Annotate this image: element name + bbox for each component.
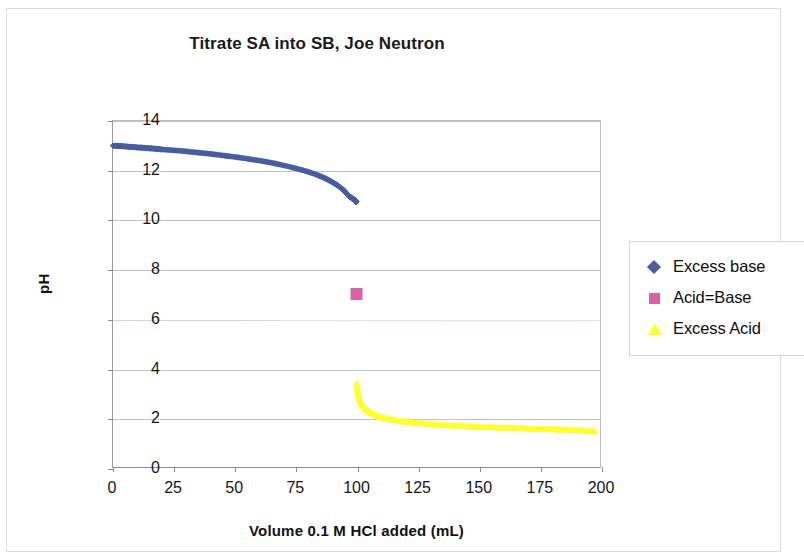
series-acid-base (351, 289, 362, 300)
y-tick-label-12: 12 (120, 161, 160, 179)
x-tick-25 (174, 467, 175, 472)
legend-marker-square-icon (646, 289, 664, 307)
x-tick-125 (419, 467, 420, 472)
x-tick-label-100: 100 (327, 479, 387, 497)
x-tick-label-50: 50 (204, 479, 264, 497)
x-tick-0 (113, 467, 114, 472)
y-tick-label-14: 14 (120, 111, 160, 129)
x-tick-label-200: 200 (571, 479, 631, 497)
x-tick-175 (541, 467, 542, 472)
y-tick-label-8: 8 (120, 260, 160, 278)
chart-title: Titrate SA into SB, Joe Neutron (7, 34, 627, 54)
legend-marker-diamond-icon (646, 258, 664, 276)
data-series-layer (113, 121, 600, 467)
x-tick-150 (480, 467, 481, 472)
x-tick-label-0: 0 (82, 479, 142, 497)
y-axis-title: pH (35, 273, 52, 294)
chart-legend: Excess baseAcid=BaseExcess Acid (629, 241, 804, 356)
plot-area (112, 120, 601, 468)
x-tick-100 (358, 467, 359, 472)
x-tick-75 (296, 467, 297, 472)
x-tick-200 (602, 467, 603, 472)
legend-item-excess-base[interactable]: Excess base (630, 251, 804, 282)
x-tick-label-75: 75 (265, 479, 325, 497)
diamond-shape (647, 259, 661, 273)
y-tick-label-0: 0 (120, 459, 160, 477)
y-tick-label-2: 2 (120, 409, 160, 427)
y-tick-label-4: 4 (120, 360, 160, 378)
series-excess-acid (354, 380, 599, 434)
legend-label: Excess Acid (673, 319, 761, 338)
legend-label: Acid=Base (673, 288, 751, 307)
x-tick-label-125: 125 (388, 479, 448, 497)
x-tick-label-150: 150 (449, 479, 509, 497)
y-tick-label-10: 10 (120, 210, 160, 228)
legend-item-acid-base[interactable]: Acid=Base (630, 282, 804, 313)
x-axis-title: Volume 0.1 M HCl added (mL) (112, 522, 601, 539)
legend-marker-triangle-icon (646, 320, 664, 338)
triangle-shape (648, 323, 662, 335)
legend-item-excess-acid[interactable]: Excess Acid (630, 313, 804, 344)
y-tick-label-6: 6 (120, 310, 160, 328)
square-shape (649, 293, 660, 304)
chart-frame: Titrate SA into SB, Joe Neutron pH Volum… (6, 8, 781, 552)
legend-label: Excess base (673, 257, 765, 276)
x-tick-50 (235, 467, 236, 472)
x-tick-label-175: 175 (510, 479, 570, 497)
x-tick-label-25: 25 (143, 479, 203, 497)
